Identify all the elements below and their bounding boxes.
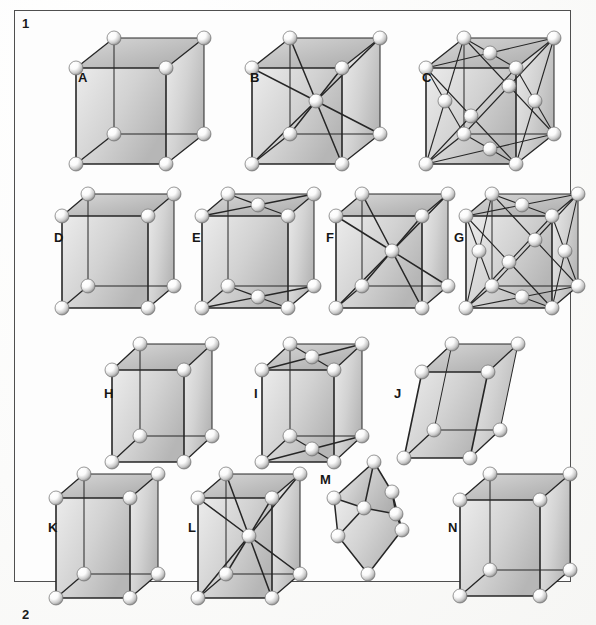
body-center-sphere — [309, 94, 323, 108]
figure-number: 1 — [22, 16, 29, 31]
lattice-cell-n: N — [444, 458, 572, 586]
face-center-sphere — [515, 290, 529, 304]
corner-sphere — [453, 589, 467, 603]
corner-sphere — [307, 187, 321, 201]
corner-sphere — [191, 491, 205, 505]
lattice-cell-label-n: N — [448, 520, 457, 535]
corner-sphere — [335, 157, 349, 171]
corner-sphere — [197, 31, 211, 45]
face-center-sphere — [515, 198, 529, 212]
corner-sphere — [385, 485, 399, 499]
corner-sphere — [509, 157, 523, 171]
lattice-cell-label-a: A — [78, 70, 87, 85]
corner-sphere — [509, 61, 523, 75]
lattice-cell-d: D — [46, 178, 171, 303]
face-center-sphere — [472, 244, 486, 258]
lattice-cell-drawing-n — [444, 458, 572, 586]
corner-sphere — [159, 157, 173, 171]
corner-sphere — [283, 429, 297, 443]
face-center-sphere — [528, 233, 542, 247]
corner-sphere — [167, 279, 181, 293]
corner-sphere — [427, 423, 441, 437]
lattice-cell-drawing-g — [450, 178, 575, 303]
corner-sphere — [105, 363, 119, 377]
lattice-cell-label-k: K — [48, 520, 57, 535]
corner-sphere — [77, 467, 91, 481]
lattice-cell-drawing-b — [236, 22, 366, 152]
corner-sphere — [151, 467, 165, 481]
corner-sphere — [335, 61, 349, 75]
lattice-cell-drawing-h — [96, 328, 216, 453]
corner-sphere — [219, 467, 233, 481]
lattice-cell-drawing-a — [60, 22, 190, 152]
corner-sphere — [191, 591, 205, 605]
corner-sphere — [283, 31, 297, 45]
face-center-sphere — [502, 255, 516, 269]
lattice-cell-drawing-m — [318, 452, 428, 582]
lattice-cell-f: F — [320, 178, 445, 303]
corner-sphere — [485, 187, 499, 201]
corner-sphere — [167, 187, 181, 201]
base-center-sphere — [251, 198, 265, 212]
corner-sphere — [107, 127, 121, 141]
face-center-sphere — [438, 94, 452, 108]
corner-sphere — [77, 567, 91, 581]
corner-sphere — [453, 493, 467, 507]
lattice-face-front — [56, 498, 130, 598]
corner-sphere — [293, 467, 307, 481]
lattice-cell-drawing-e — [186, 178, 311, 303]
corner-sphere — [361, 567, 375, 581]
lattice-cell-label-e: E — [192, 230, 201, 245]
body-center-sphere — [242, 529, 256, 543]
corner-sphere — [133, 429, 147, 443]
face-center-sphere — [483, 46, 497, 60]
corner-sphere — [283, 337, 297, 351]
corner-sphere — [265, 591, 279, 605]
corner-sphere — [355, 187, 369, 201]
lattice-cell-b: B — [236, 22, 366, 152]
corner-sphere — [571, 187, 585, 201]
lattice-cell-drawing-k — [40, 458, 160, 586]
lattice-cell-m: M — [318, 452, 428, 582]
corner-sphere — [485, 279, 499, 293]
base-center-sphere — [305, 350, 319, 364]
base-center-sphere — [251, 290, 265, 304]
corner-sphere — [483, 563, 497, 577]
corner-sphere — [197, 127, 211, 141]
corner-sphere — [151, 567, 165, 581]
lattice-cell-label-d: D — [54, 230, 63, 245]
corner-sphere — [445, 337, 459, 351]
corner-sphere — [195, 209, 209, 223]
corner-sphere — [283, 127, 297, 141]
corner-sphere — [123, 591, 137, 605]
lattice-cell-label-g: G — [454, 230, 464, 245]
body-center-sphere — [385, 244, 399, 258]
corner-sphere — [55, 301, 69, 315]
corner-sphere — [511, 337, 525, 351]
base-center-sphere — [305, 442, 319, 456]
corner-sphere — [547, 31, 561, 45]
corner-sphere — [327, 363, 341, 377]
corner-sphere — [395, 523, 409, 537]
corner-sphere — [205, 429, 219, 443]
corner-sphere — [159, 61, 173, 75]
lattice-face-front — [198, 498, 272, 598]
corner-sphere — [55, 209, 69, 223]
corner-sphere — [293, 567, 307, 581]
corner-sphere — [81, 187, 95, 201]
lattice-cell-drawing-j — [388, 328, 508, 453]
lattice-cell-label-l: L — [188, 520, 196, 535]
lattice-cell-label-b: B — [250, 70, 259, 85]
face-center-sphere — [528, 94, 542, 108]
face-center-sphere — [502, 79, 516, 93]
corner-sphere — [69, 157, 83, 171]
lattice-cell-l: L — [182, 458, 302, 586]
corner-sphere — [355, 279, 369, 293]
corner-sphere — [107, 31, 121, 45]
lattice-face-front — [76, 68, 166, 164]
lattice-face-front — [262, 370, 334, 462]
lattice-cell-c: C — [410, 22, 540, 152]
lattice-cell-drawing-l — [182, 458, 302, 586]
face-center-sphere — [483, 142, 497, 156]
lattice-cell-label-c: C — [422, 70, 431, 85]
